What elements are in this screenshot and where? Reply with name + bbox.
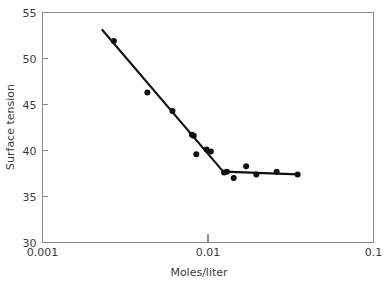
y-tick-label-55: 55 — [23, 7, 37, 20]
chart-figure: 303540455055 0.0010.010.1 Surface tensio… — [0, 0, 390, 286]
data-point — [231, 175, 237, 181]
scatter-plot: 303540455055 0.0010.010.1 Surface tensio… — [0, 0, 390, 286]
data-point — [253, 171, 259, 177]
data-point — [295, 171, 301, 177]
data-point — [224, 169, 230, 175]
plot-background — [0, 0, 390, 286]
x-axis-title: Moles/liter — [170, 266, 228, 279]
y-tick-label-40: 40 — [23, 145, 37, 158]
data-point — [191, 133, 197, 139]
y-axis-title: Surface tension — [4, 84, 17, 170]
x-tick-label-0.1: 0.1 — [365, 246, 383, 259]
data-point — [208, 148, 214, 154]
y-tick-label-35: 35 — [23, 191, 37, 204]
data-point — [144, 90, 150, 96]
y-tick-label-45: 45 — [23, 99, 37, 112]
data-point — [274, 169, 280, 175]
y-tick-label-50: 50 — [23, 53, 37, 66]
data-point — [243, 163, 249, 169]
data-point — [111, 38, 117, 44]
x-tick-label-0.001: 0.001 — [27, 246, 59, 259]
x-tick-label-0.01: 0.01 — [196, 246, 221, 259]
data-point — [193, 151, 199, 157]
data-point — [169, 108, 175, 114]
